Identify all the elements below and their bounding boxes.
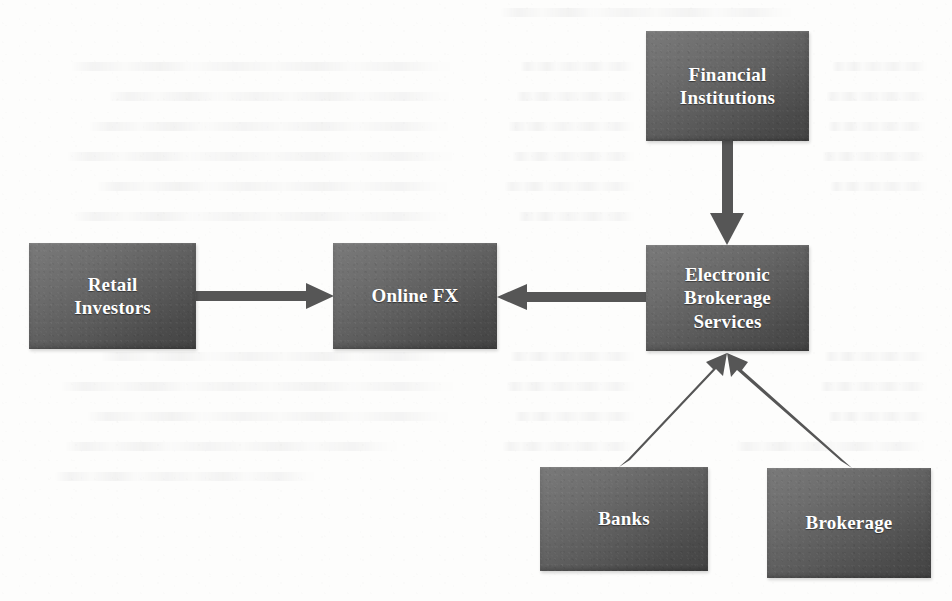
edge-fininst-to-ebs	[710, 141, 744, 245]
scanned-page: RetailInvestors Online FX FinancialInsti…	[0, 0, 952, 601]
node-retail-investors-line2: Investors	[68, 296, 157, 319]
edge-banks-to-ebs	[619, 353, 727, 467]
node-retail-investors-label: RetailInvestors	[62, 273, 163, 319]
node-electronic-brokerage-services-line2: Brokerage	[678, 286, 777, 309]
node-online-fx-line1: Online FX	[366, 284, 465, 307]
node-electronic-brokerage-services-line3: Services	[678, 310, 777, 333]
node-brokerage[interactable]: Brokerage	[767, 468, 931, 578]
node-brokerage-label: Brokerage	[794, 511, 905, 534]
node-retail-investors[interactable]: RetailInvestors	[29, 243, 196, 349]
node-electronic-brokerage-services-line1: Electronic	[678, 263, 777, 286]
edge-brokerage-to-ebs	[727, 353, 852, 468]
node-financial-institutions-label: FinancialInstitutions	[668, 63, 787, 109]
node-financial-institutions[interactable]: FinancialInstitutions	[646, 31, 809, 141]
edge-ebs-to-onlinefx	[497, 284, 646, 310]
node-retail-investors-line1: Retail	[68, 273, 157, 296]
node-online-fx-label: Online FX	[360, 284, 471, 307]
node-financial-institutions-line1: Financial	[674, 63, 781, 86]
node-electronic-brokerage-services-label: ElectronicBrokerageServices	[672, 263, 783, 333]
node-banks-label: Banks	[586, 507, 662, 530]
node-online-fx[interactable]: Online FX	[333, 243, 497, 349]
node-banks-line1: Banks	[592, 507, 656, 530]
node-brokerage-line1: Brokerage	[800, 511, 899, 534]
node-electronic-brokerage-services[interactable]: ElectronicBrokerageServices	[646, 245, 809, 351]
edge-retail-to-onlinefx	[196, 283, 334, 309]
node-financial-institutions-line2: Institutions	[674, 86, 781, 109]
node-banks[interactable]: Banks	[540, 467, 708, 571]
